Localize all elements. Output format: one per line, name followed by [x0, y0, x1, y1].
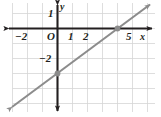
y-tick-label-1: 1 [48, 8, 54, 19]
coordinate-graph: −2 O 1 2 5 x 1 −2 y [0, 0, 161, 117]
point-y-intercept [55, 71, 61, 77]
x-tick-label-5: 5 [126, 31, 132, 42]
plotted-line [12, 5, 150, 108]
grid-lines [13, 3, 156, 112]
x-tick-label-2: 2 [83, 31, 89, 42]
y-axis-name-label: y [60, 2, 64, 12]
graph-canvas [0, 0, 161, 117]
axes [9, 5, 152, 111]
point-x-intercept [115, 26, 121, 32]
x-axis-name-label: x [140, 32, 145, 42]
y-tick-label-neg2: −2 [39, 53, 51, 64]
origin-label: O [47, 31, 55, 42]
x-tick-label-1: 1 [68, 31, 74, 42]
x-tick-label-neg2: −2 [15, 31, 27, 42]
